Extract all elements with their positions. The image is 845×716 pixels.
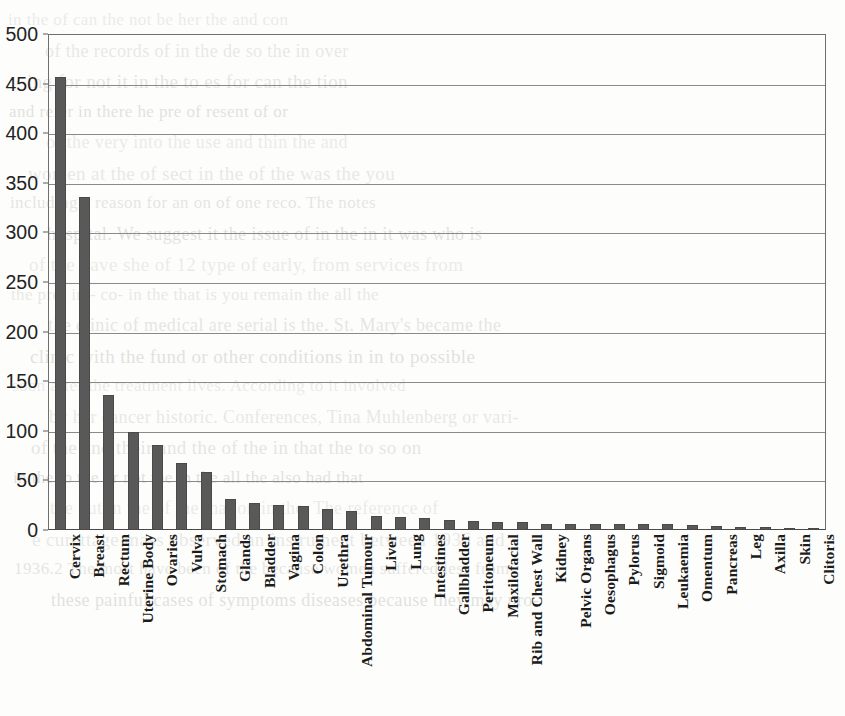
x-axis-tick-label: Axilla bbox=[771, 534, 789, 574]
x-axis-tick-label: Skin bbox=[796, 534, 814, 565]
bar bbox=[517, 522, 528, 530]
bar bbox=[152, 445, 163, 530]
y-axis-tick-label: 50 bbox=[16, 469, 38, 492]
x-axis-tick-label: Intestines bbox=[431, 534, 449, 599]
bar bbox=[201, 472, 212, 530]
x-axis-tick-label: Oesophagus bbox=[601, 534, 619, 615]
x-axis-tick-label: Cervix bbox=[66, 534, 84, 579]
x-axis-labels: CervixBreastRectumUterine BodyOvariesVul… bbox=[48, 534, 826, 716]
x-axis-tick-label: Rib and Chest Wall bbox=[528, 534, 546, 665]
y-axis-tick-mark bbox=[43, 282, 48, 283]
x-axis-tick-label: Urethra bbox=[334, 534, 352, 588]
x-axis-tick-label: Breast bbox=[90, 534, 108, 577]
x-axis-tick-label: Glands bbox=[236, 534, 254, 582]
x-axis-tick-label: Stomach bbox=[212, 534, 230, 592]
bar bbox=[614, 524, 625, 530]
x-axis-tick-label: Maxilofacial bbox=[504, 534, 522, 618]
y-axis-labels: 050100150200250300350400450500 bbox=[0, 34, 44, 530]
y-axis-tick-label: 100 bbox=[5, 419, 38, 442]
y-axis-tick-mark bbox=[43, 480, 48, 481]
bar bbox=[225, 499, 236, 530]
x-axis-tick-label: Pylorus bbox=[625, 534, 643, 586]
bar bbox=[735, 527, 746, 530]
bar bbox=[784, 528, 795, 530]
y-axis-tick-label: 200 bbox=[5, 320, 38, 343]
x-axis-tick-label: Pancreas bbox=[723, 534, 741, 595]
y-axis-tick-mark bbox=[43, 381, 48, 382]
bar bbox=[419, 518, 430, 530]
x-axis-tick-label: Uterine Body bbox=[139, 534, 157, 623]
bar bbox=[371, 516, 382, 530]
x-axis-tick-label: Ovaries bbox=[163, 534, 181, 586]
bar bbox=[541, 524, 552, 530]
x-axis-tick-label: Pelvic Organs bbox=[577, 534, 595, 628]
bar bbox=[322, 509, 333, 530]
x-axis-tick-label: Gallbladder bbox=[455, 534, 473, 615]
bar bbox=[55, 77, 66, 530]
bar bbox=[760, 527, 771, 530]
x-axis-tick-label: Kidney bbox=[552, 534, 570, 583]
x-axis-tick-label: Bladder bbox=[261, 534, 279, 588]
bar bbox=[273, 505, 284, 530]
bar bbox=[808, 528, 819, 530]
y-axis-tick-mark bbox=[43, 430, 48, 431]
bar bbox=[298, 506, 309, 530]
y-axis-tick-label: 250 bbox=[5, 271, 38, 294]
y-axis-tick-label: 300 bbox=[5, 221, 38, 244]
y-axis-tick-label: 450 bbox=[5, 72, 38, 95]
x-axis-tick-label: Rectum bbox=[115, 534, 133, 586]
y-axis-tick-mark bbox=[43, 182, 48, 183]
bar bbox=[590, 524, 601, 530]
bar bbox=[638, 524, 649, 530]
bar bbox=[249, 503, 260, 530]
x-axis-tick-label: Omentum bbox=[698, 534, 716, 602]
y-axis-tick-mark bbox=[43, 232, 48, 233]
bar bbox=[662, 524, 673, 530]
x-axis-tick-label: Vagina bbox=[285, 534, 303, 581]
x-axis-tick-label: Colon bbox=[309, 534, 327, 574]
y-axis-tick-label: 500 bbox=[5, 23, 38, 46]
bar bbox=[103, 395, 114, 530]
bar bbox=[444, 520, 455, 530]
x-axis-tick-label: Peritoneum bbox=[479, 534, 497, 612]
y-axis-tick-mark bbox=[43, 331, 48, 332]
y-axis-tick-mark bbox=[43, 133, 48, 134]
x-axis-tick-label: Lung bbox=[407, 534, 425, 570]
y-axis-tick-label: 150 bbox=[5, 370, 38, 393]
x-axis-tick-label: Leukaemia bbox=[674, 534, 692, 609]
bar bbox=[176, 463, 187, 530]
y-axis-tick-mark bbox=[43, 530, 48, 531]
y-axis-tick-mark bbox=[43, 83, 48, 84]
bar bbox=[468, 521, 479, 530]
bar bbox=[128, 432, 139, 530]
bar bbox=[687, 525, 698, 530]
x-axis-tick-label: Leg bbox=[747, 534, 765, 559]
x-axis-tick-label: Vulva bbox=[188, 534, 206, 573]
y-axis-tick-label: 0 bbox=[27, 519, 38, 542]
x-axis-tick-label: Liver bbox=[382, 534, 400, 571]
bar bbox=[565, 524, 576, 530]
y-axis-tick-mark bbox=[43, 34, 48, 35]
x-axis-tick-label: Clitoris bbox=[820, 534, 838, 585]
y-axis-tick-label: 350 bbox=[5, 171, 38, 194]
bar bbox=[346, 511, 357, 530]
bar-chart: 050100150200250300350400450500 CervixBre… bbox=[0, 0, 845, 716]
bar-series bbox=[48, 34, 826, 530]
bar bbox=[711, 526, 722, 530]
bar bbox=[395, 517, 406, 530]
x-axis-tick-label: Sigmoid bbox=[650, 534, 668, 589]
y-axis-tick-label: 400 bbox=[5, 122, 38, 145]
x-axis-tick-label: Abdominal Tumour bbox=[358, 534, 376, 667]
bar bbox=[492, 522, 503, 530]
bar bbox=[79, 197, 90, 530]
